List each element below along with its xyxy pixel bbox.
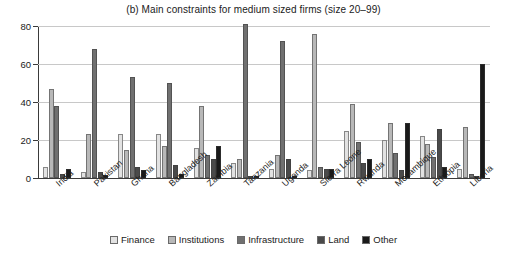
legend-swatch-icon xyxy=(110,236,118,244)
legend-swatch-icon xyxy=(237,236,245,244)
bar xyxy=(350,104,355,178)
y-axis-tick xyxy=(33,26,38,27)
bar xyxy=(43,167,48,178)
bar-group xyxy=(118,26,146,178)
legend-item[interactable]: Infrastructure xyxy=(237,234,304,245)
bar xyxy=(231,163,236,178)
bar xyxy=(431,157,436,178)
bar xyxy=(388,123,393,178)
bar xyxy=(199,106,204,178)
legend-label: Finance xyxy=(121,234,155,245)
bar xyxy=(162,146,167,178)
y-axis-tick-label: 80 xyxy=(1,21,31,32)
legend-item[interactable]: Finance xyxy=(110,234,155,245)
y-axis-tick-label: 40 xyxy=(1,97,31,108)
bar xyxy=(81,172,86,178)
bar-group xyxy=(382,26,410,178)
y-axis-tick xyxy=(33,140,38,141)
bar xyxy=(275,155,280,178)
bar xyxy=(243,24,248,178)
legend-item[interactable]: Other xyxy=(362,234,397,245)
bar xyxy=(237,159,242,178)
legend-swatch-icon xyxy=(168,236,176,244)
y-axis-tick xyxy=(33,178,38,179)
bar-group xyxy=(231,26,259,178)
y-axis-tick xyxy=(33,64,38,65)
y-axis-tick-label: 0 xyxy=(1,173,31,184)
chart-title: (b) Main constraints for medium sized fi… xyxy=(0,4,507,15)
legend-swatch-icon xyxy=(362,236,370,244)
legend-label: Other xyxy=(373,234,397,245)
x-axis-labels: IndiaPakistanGhanaBangladeshZambiaTanzan… xyxy=(38,179,490,233)
bar xyxy=(167,83,172,178)
legend-label: Institutions xyxy=(179,234,224,245)
legend-item[interactable]: Land xyxy=(317,234,349,245)
y-axis-tick-label: 60 xyxy=(1,59,31,70)
chart-container: (b) Main constraints for medium sized fi… xyxy=(0,0,507,262)
bar xyxy=(130,77,135,178)
bar-group xyxy=(156,26,184,178)
bar xyxy=(92,49,97,178)
y-axis-tick xyxy=(33,102,38,103)
bar xyxy=(307,170,312,178)
bar-group xyxy=(43,26,71,178)
bar xyxy=(463,127,468,178)
bar xyxy=(382,140,387,178)
bar xyxy=(118,134,123,178)
bar xyxy=(49,89,54,178)
bar-group xyxy=(269,26,297,178)
bar xyxy=(269,169,274,179)
bar xyxy=(86,134,91,178)
bar xyxy=(312,34,317,178)
y-axis-tick-label: 20 xyxy=(1,135,31,146)
y-axis-labels: 020406080 xyxy=(0,26,31,179)
legend-label: Infrastructure xyxy=(248,234,304,245)
bar xyxy=(156,134,161,178)
bar-group xyxy=(307,26,335,178)
bar xyxy=(280,41,285,178)
bar-group xyxy=(457,26,485,178)
chart-legend: FinanceInstitutionsInfrastructureLandOth… xyxy=(0,234,507,245)
bar xyxy=(124,150,129,179)
bar-group xyxy=(81,26,109,178)
bar xyxy=(54,106,59,178)
bar xyxy=(393,153,398,178)
legend-swatch-icon xyxy=(317,236,325,244)
legend-label: Land xyxy=(328,234,349,245)
legend-item[interactable]: Institutions xyxy=(168,234,224,245)
bar xyxy=(480,64,485,178)
